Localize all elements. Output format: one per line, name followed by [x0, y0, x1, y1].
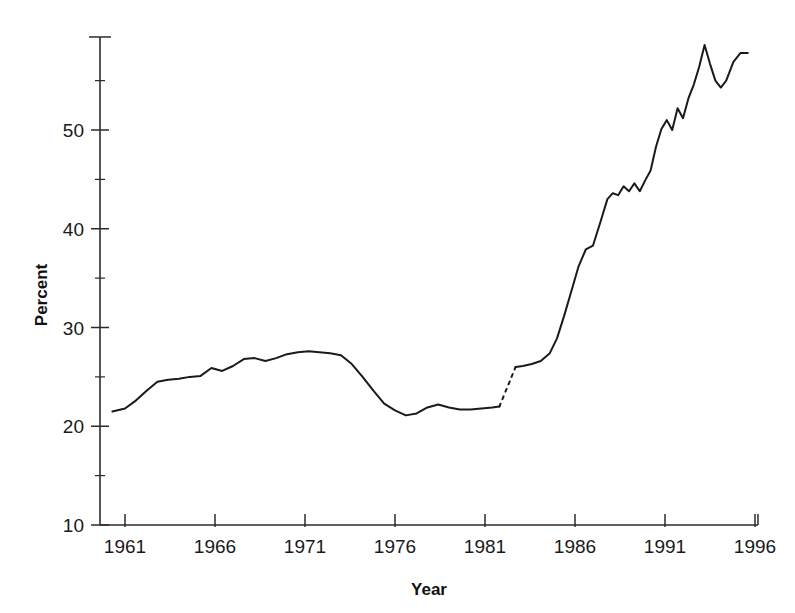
- y-axis-title: Percent: [32, 263, 51, 326]
- y-tick-label-30: 30: [63, 318, 84, 339]
- x-tick-label-1996: 1996: [734, 536, 776, 557]
- x-axis-title: Year: [411, 580, 447, 599]
- data-series-group: [112, 45, 747, 415]
- y-axis-tick-labels: 1020304050: [63, 120, 84, 536]
- chart-figure: 1020304050 19611966197119761981198619911…: [0, 0, 795, 613]
- x-tick-label-1991: 1991: [644, 536, 686, 557]
- y-tick-label-40: 40: [63, 219, 84, 240]
- y-tick-label-20: 20: [63, 416, 84, 437]
- data-line-2: [516, 45, 748, 367]
- x-tick-label-1976: 1976: [374, 536, 416, 557]
- y-tick-label-50: 50: [63, 120, 84, 141]
- x-tick-label-1966: 1966: [194, 536, 236, 557]
- x-tick-label-1986: 1986: [554, 536, 596, 557]
- y-tick-label-10: 10: [63, 515, 84, 536]
- line-chart: 1020304050 19611966197119761981198619911…: [0, 0, 795, 613]
- x-tick-label-1971: 1971: [284, 536, 326, 557]
- x-tick-label-1981: 1981: [464, 536, 506, 557]
- x-axis-tick-labels: 19611966197119761981198619911996: [104, 536, 776, 557]
- data-line-0: [112, 351, 499, 415]
- x-tick-label-1961: 1961: [104, 536, 146, 557]
- data-line-1: [499, 367, 515, 407]
- axes-group: [89, 37, 758, 525]
